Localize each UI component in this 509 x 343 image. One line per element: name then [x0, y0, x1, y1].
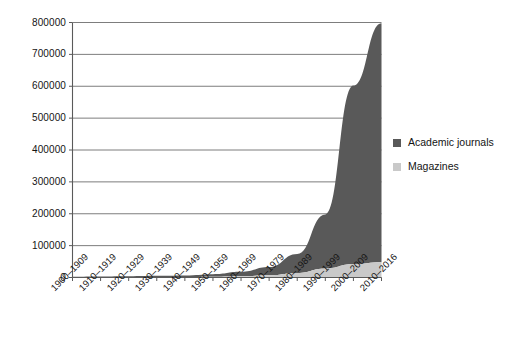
- legend-swatch-magazines: [393, 163, 401, 171]
- legend-swatch-academic-journals: [393, 139, 401, 147]
- legend-item-magazines[interactable]: Magazines: [393, 161, 505, 172]
- legend-label-academic-journals: Academic journals: [408, 137, 494, 148]
- chart-legend: Academic journals Magazines: [393, 137, 505, 185]
- stacked-area-chart: 8000007000006000005000004000003000002000…: [0, 0, 509, 343]
- legend-item-academic-journals[interactable]: Academic journals: [393, 137, 505, 148]
- legend-label-magazines: Magazines: [408, 161, 459, 172]
